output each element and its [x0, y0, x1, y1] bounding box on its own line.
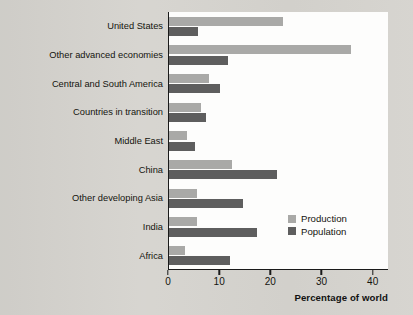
- plot-area: [168, 12, 388, 270]
- legend-item: Population: [288, 227, 347, 237]
- bars-container: [169, 12, 388, 269]
- bar-production: [169, 131, 187, 140]
- x-axis-tick: [270, 270, 271, 275]
- bar-population: [169, 170, 277, 179]
- x-axis-tick-label: 10: [214, 276, 225, 287]
- bar-production: [169, 103, 201, 112]
- bar-production: [169, 189, 197, 198]
- category-label: Central and South America: [0, 79, 163, 89]
- bar-production: [169, 17, 283, 26]
- bar-production: [169, 246, 185, 255]
- bar-population: [169, 113, 206, 122]
- bar-population: [169, 256, 230, 265]
- category-label: Other developing Asia: [0, 193, 163, 203]
- x-axis-tick-label: 40: [367, 276, 378, 287]
- category-label: China: [0, 165, 163, 175]
- bar-chart-figure: United StatesOther advanced economiesCen…: [0, 0, 413, 315]
- bar-production: [169, 217, 197, 226]
- x-axis-title: Percentage of world: [294, 292, 388, 303]
- category-label: India: [0, 222, 163, 232]
- x-axis-tick: [372, 270, 373, 275]
- category-label: Other advanced economies: [0, 50, 163, 60]
- x-axis-tick-label: 20: [265, 276, 276, 287]
- category-label: Africa: [0, 251, 163, 261]
- category-label: Countries in transition: [0, 107, 163, 117]
- chart-legend: ProductionPopulation: [288, 214, 347, 239]
- bar-population: [169, 56, 228, 65]
- x-axis-tick-label: 30: [316, 276, 327, 287]
- x-axis-tick: [167, 270, 168, 275]
- bar-production: [169, 45, 351, 54]
- x-axis-tick-label: 0: [165, 276, 171, 287]
- legend-label: Population: [301, 227, 346, 237]
- x-axis-tick: [321, 270, 322, 275]
- bar-population: [169, 84, 220, 93]
- bar-production: [169, 160, 232, 169]
- bar-population: [169, 27, 198, 36]
- x-axis-tick: [218, 270, 219, 275]
- legend-swatch-icon: [288, 215, 296, 223]
- legend-label: Production: [301, 214, 347, 224]
- bar-population: [169, 142, 195, 151]
- legend-item: Production: [288, 214, 347, 224]
- bar-population: [169, 228, 257, 237]
- x-axis: Percentage of world 010203040: [168, 270, 388, 310]
- legend-swatch-icon: [288, 227, 296, 235]
- category-label: Middle East: [0, 136, 163, 146]
- bar-production: [169, 74, 209, 83]
- bar-population: [169, 199, 243, 208]
- category-label: United States: [0, 21, 163, 31]
